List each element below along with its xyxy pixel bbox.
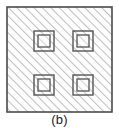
figure-panel-b: (b) xyxy=(0,0,119,132)
inclusion-inner-hatch xyxy=(38,35,50,47)
outer-square-group xyxy=(7,7,112,112)
inclusion-inner-hatch xyxy=(77,79,89,91)
inclusion-inner-hatch xyxy=(38,79,50,91)
outer-square-hatch xyxy=(7,7,112,112)
inclusion-inner-hatch xyxy=(77,35,89,47)
cross-section-illustration xyxy=(0,0,119,119)
figure-caption: (b) xyxy=(0,112,119,128)
